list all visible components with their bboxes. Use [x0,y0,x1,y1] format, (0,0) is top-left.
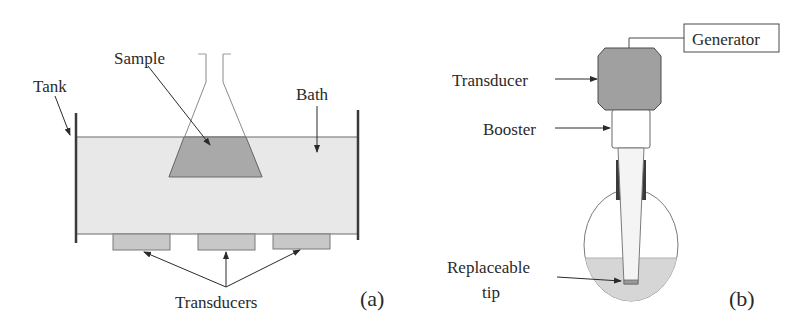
transducer-1 [113,234,170,250]
transducers-arrow-1 [144,252,226,287]
sample-arrow [148,66,210,145]
label-transducers: Transducers [175,293,257,312]
label-booster: Booster [483,120,536,139]
caption-a: (a) [360,286,384,311]
label-transducer: Transducer [452,71,528,90]
transducer-2 [198,234,255,250]
label-tank: Tank [33,77,67,96]
generator-cable [629,38,684,48]
label-sample: Sample [114,49,165,68]
panel-a-ultrasonic-bath: Tank Sample Bath Transducers (a) [33,49,384,312]
replaceable-tip [624,280,638,284]
panel-b-probe-sonicator: Generator Transducer Booster Replaceable… [447,24,779,311]
transducers-arrow-3 [226,250,300,287]
label-tip-line2: tip [482,283,500,302]
label-tip-line1: Replaceable [447,258,530,277]
booster-body [612,110,650,148]
label-generator: Generator [692,30,760,49]
sample-flask [169,54,262,177]
transducer-body [598,48,661,110]
caption-b: (b) [729,286,755,311]
tank-arrow [55,96,70,135]
ultrasound-setup-diagram: Tank Sample Bath Transducers (a) [0,0,810,334]
label-bath: Bath [296,85,329,104]
transducer-3 [273,234,330,249]
sample-liquid [169,137,262,177]
